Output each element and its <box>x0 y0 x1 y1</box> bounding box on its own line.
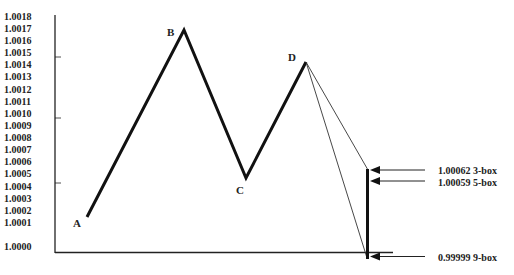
arrow-left-icon <box>370 166 425 174</box>
y-tick-label: 1.0006 <box>4 156 32 167</box>
projection-line-3box <box>306 62 368 170</box>
arrow-left-icon <box>370 177 425 185</box>
y-tick-label: 1.0005 <box>4 168 32 179</box>
y-tick-label: 1.0016 <box>4 35 32 46</box>
annotations: 1.00062 3-box 1.00059 5-box 0.99999 9-bo… <box>438 165 497 263</box>
arrows <box>370 166 425 261</box>
y-tick-label: 1.0009 <box>4 120 32 131</box>
point-label-a: A <box>73 217 81 229</box>
arrow-left-icon <box>370 253 425 261</box>
point-label-b: B <box>167 26 175 38</box>
y-tick-label: 1.0001 <box>4 217 32 228</box>
projection-line-9box <box>306 62 367 258</box>
point-labels: A B C D <box>73 26 296 229</box>
annotation-9box: 0.99999 9-box <box>438 252 497 263</box>
price-swing-line <box>87 30 306 217</box>
y-tick-label: 1.0003 <box>4 193 32 204</box>
point-label-c: C <box>236 184 244 196</box>
annotation-5box: 1.00059 5-box <box>438 177 497 188</box>
y-tick-label: 1.0010 <box>4 108 32 119</box>
y-tick-label: 1.0017 <box>4 23 32 34</box>
y-tick-label: 1.0018 <box>4 11 32 22</box>
y-tick-label: 1.0008 <box>4 132 32 143</box>
axes <box>55 15 393 253</box>
projection-lines <box>306 62 368 258</box>
y-tick-label: 1.0000 <box>4 241 32 252</box>
y-tick-label: 1.0007 <box>4 144 32 155</box>
y-tick-label: 1.0014 <box>4 59 32 70</box>
y-tick-label: 1.0004 <box>4 181 32 192</box>
y-tick-label: 1.0012 <box>4 84 32 95</box>
y-tick-label: 1.0002 <box>4 205 32 216</box>
y-tick-label: 1.0011 <box>4 96 31 107</box>
y-tick-label: 1.0015 <box>4 47 32 58</box>
y-axis-labels: 1.0018 1.0017 1.0016 1.0015 1.0014 1.001… <box>4 11 32 252</box>
annotation-3box: 1.00062 3-box <box>438 165 497 176</box>
point-label-d: D <box>288 51 296 63</box>
chart: 1.0018 1.0017 1.0016 1.0015 1.0014 1.001… <box>0 0 514 275</box>
y-tick-label: 1.0013 <box>4 71 32 82</box>
